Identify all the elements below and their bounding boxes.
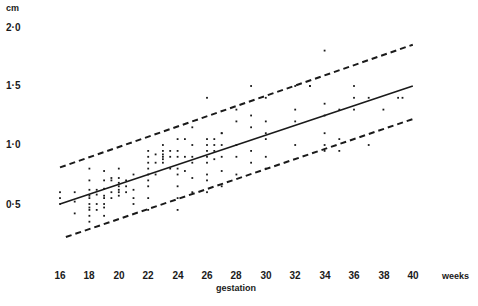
data-point: [125, 191, 127, 193]
data-point: [324, 115, 326, 117]
data-point: [383, 109, 385, 111]
data-point: [184, 156, 186, 158]
data-point: [324, 150, 326, 152]
data-point: [111, 197, 113, 199]
data-point: [89, 195, 91, 197]
data-point: [265, 132, 267, 134]
data-point: [59, 203, 61, 205]
data-point: [265, 138, 267, 140]
data-point: [265, 168, 267, 170]
x-tick-36: 36: [348, 271, 359, 281]
data-point: [206, 97, 208, 99]
x-tick-34: 34: [319, 271, 330, 281]
data-point: [59, 197, 61, 199]
data-point: [236, 174, 238, 176]
data-point: [162, 158, 164, 160]
data-point: [118, 191, 120, 193]
data-point: [265, 97, 267, 99]
data-point: [221, 185, 223, 187]
data-point: [265, 121, 267, 123]
data-point: [294, 144, 296, 146]
upper-limit-line: [60, 45, 413, 168]
data-point: [118, 182, 120, 184]
data-point: [133, 189, 135, 191]
data-point: [177, 209, 179, 211]
data-point: [89, 197, 91, 199]
data-point: [250, 162, 252, 164]
data-point: [162, 144, 164, 146]
data-point: [96, 194, 98, 196]
data-point: [221, 132, 223, 134]
data-point: [191, 126, 193, 128]
data-point: [206, 180, 208, 182]
data-point: [191, 177, 193, 179]
data-point: [147, 209, 149, 211]
data-point: [236, 109, 238, 111]
data-point: [265, 156, 267, 158]
x-axis-unit: weeks: [442, 271, 469, 281]
data-point: [103, 170, 105, 172]
data-point: [191, 144, 193, 146]
y-tick-1-0: 1·0: [6, 140, 20, 150]
data-point: [103, 203, 105, 205]
data-point: [147, 185, 149, 187]
data-point: [324, 50, 326, 52]
data-point: [133, 197, 135, 199]
data-point: [184, 170, 186, 172]
data-point: [89, 209, 91, 211]
data-point: [118, 177, 120, 179]
x-tick-40: 40: [407, 271, 418, 281]
x-tick-38: 38: [378, 271, 389, 281]
x-tick-24: 24: [172, 271, 183, 281]
data-point: [89, 215, 91, 217]
data-point: [324, 103, 326, 105]
data-point: [147, 174, 149, 176]
data-point: [155, 162, 157, 164]
data-point: [294, 85, 296, 87]
data-point: [206, 174, 208, 176]
data-point: [74, 191, 76, 193]
data-point: [177, 168, 179, 170]
data-point: [103, 180, 105, 182]
data-point: [206, 138, 208, 140]
data-point: [111, 191, 113, 193]
x-tick-26: 26: [201, 271, 212, 281]
x-axis-title: gestation: [216, 283, 256, 293]
data-point: [147, 168, 149, 170]
data-point: [206, 162, 208, 164]
data-point: [324, 144, 326, 146]
x-tick-22: 22: [142, 271, 153, 281]
y-tick-0-5: 0·5: [6, 200, 20, 210]
data-point: [184, 138, 186, 140]
data-point: [368, 144, 370, 146]
data-point: [96, 189, 98, 191]
data-point: [59, 191, 61, 193]
data-point: [147, 162, 149, 164]
data-point: [397, 97, 399, 99]
x-tick-18: 18: [83, 271, 94, 281]
data-point: [162, 154, 164, 156]
data-point: [118, 189, 120, 191]
data-point: [191, 156, 193, 158]
x-tick-32: 32: [289, 271, 300, 281]
x-tick-28: 28: [230, 271, 241, 281]
data-point: [206, 191, 208, 193]
data-point: [338, 109, 340, 111]
data-point: [250, 150, 252, 152]
data-point: [294, 121, 296, 123]
data-point: [89, 221, 91, 223]
data-point: [191, 162, 193, 164]
data-point: [103, 197, 105, 199]
data-point: [213, 150, 215, 152]
data-point: [221, 156, 223, 158]
data-point: [103, 215, 105, 217]
data-point: [206, 144, 208, 146]
data-point: [147, 156, 149, 158]
data-point: [118, 185, 120, 187]
data-point: [169, 156, 171, 158]
data-point: [89, 189, 91, 191]
data-point: [89, 207, 91, 209]
data-point: [236, 156, 238, 158]
data-point: [250, 126, 252, 128]
data-point: [162, 156, 164, 158]
